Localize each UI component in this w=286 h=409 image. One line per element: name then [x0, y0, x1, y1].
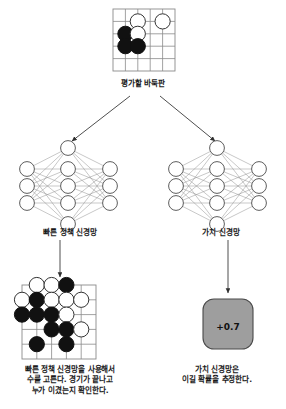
go-stone-black	[29, 337, 44, 352]
arrow-to-value-network	[160, 96, 215, 141]
value-network	[169, 141, 267, 232]
go-stone-white	[14, 292, 29, 307]
caption-rollout-description: 빠른 정책 신경망을 사용해서 수를 고른다. 경기가 끝나고 누가 이겼는지 …	[2, 365, 138, 396]
network-node	[61, 162, 76, 177]
network-node	[210, 141, 225, 156]
go-stone-black	[14, 307, 29, 322]
go-stone-black	[29, 292, 44, 307]
network-node	[252, 196, 267, 211]
diagram-svg: +0.7	[0, 0, 286, 409]
go-stone-white	[74, 322, 89, 337]
figure-canvas: +0.7 평가할 바둑판 빠른 정책 신경망 가치 신경망 빠른 정책 신경망을…	[0, 0, 286, 409]
network-node	[20, 179, 35, 194]
go-stone-white	[59, 292, 74, 307]
network-node	[210, 162, 225, 177]
go-stone-white	[59, 307, 74, 322]
caption-value-description: 가치 신경망은 이길 확률을 추정한다.	[150, 365, 284, 386]
network-node	[61, 179, 76, 194]
go-stone-white	[155, 14, 170, 29]
network-node	[210, 179, 225, 194]
go-stone-black	[130, 39, 145, 54]
rollout-board	[14, 277, 96, 359]
caption-position-to-evaluate: 평가할 바둑판	[73, 79, 213, 89]
go-stone-black	[59, 277, 74, 292]
fast-policy-network	[20, 141, 118, 232]
arrow-to-policy-network	[72, 96, 130, 141]
value-output-box: +0.7	[203, 299, 253, 349]
go-stone-white	[74, 292, 89, 307]
go-stone-black	[59, 322, 74, 337]
network-node	[61, 141, 76, 156]
network-node	[103, 196, 118, 211]
network-node	[20, 162, 35, 177]
go-stone-black	[29, 307, 44, 322]
network-node	[61, 196, 76, 211]
go-stone-white	[44, 292, 59, 307]
network-node	[20, 196, 35, 211]
caption-value-network: 가치 신경망	[162, 228, 280, 238]
top-board	[113, 9, 175, 71]
go-stone-black	[44, 322, 59, 337]
network-node	[210, 196, 225, 211]
network-node	[169, 162, 184, 177]
value-score: +0.7	[216, 322, 239, 332]
network-node	[169, 179, 184, 194]
go-stone-black	[44, 307, 59, 322]
network-node	[169, 196, 184, 211]
network-node	[252, 179, 267, 194]
network-node	[103, 162, 118, 177]
network-node	[252, 162, 267, 177]
go-stone-white	[29, 277, 44, 292]
go-stone-black	[59, 337, 74, 352]
go-stone-white	[44, 277, 59, 292]
caption-fast-policy-network: 빠른 정책 신경망	[8, 228, 132, 238]
network-node	[103, 179, 118, 194]
